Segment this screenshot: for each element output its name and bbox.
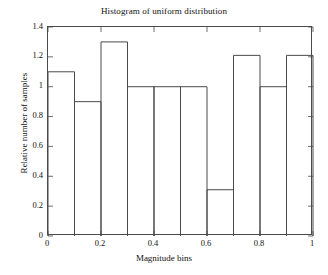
histogram-bar (75, 102, 102, 236)
histogram-bar (128, 87, 155, 236)
histogram-figure: Histogram of uniform distribution Relati… (0, 0, 328, 275)
y-tick-label: 1 (3, 81, 43, 90)
x-axis-tick-labels: 00.20.40.60.81 (47, 239, 312, 253)
histogram-bar (154, 87, 181, 236)
histogram-bar (48, 72, 75, 236)
histogram-bars (48, 27, 313, 236)
y-axis-tick-labels: 00.20.40.60.811.21.4 (0, 26, 43, 235)
histogram-bar (260, 87, 287, 236)
x-tick-label: 0 (27, 239, 67, 248)
x-tick-label: 0.6 (186, 239, 226, 248)
x-tick-label: 0.4 (133, 239, 173, 248)
x-tick-label: 1 (292, 239, 328, 248)
x-axis-label: Magnitude bins (0, 253, 328, 263)
plot-area (47, 26, 312, 235)
y-tick-label: 1.2 (3, 51, 43, 60)
x-tick-label: 0.8 (239, 239, 279, 248)
x-tick-label: 0.2 (80, 239, 120, 248)
y-tick-label: 1.4 (3, 22, 43, 31)
histogram-bar (287, 55, 314, 236)
histogram-bar (207, 190, 234, 236)
histogram-bar (181, 87, 208, 236)
y-tick-label: 0.8 (3, 111, 43, 120)
histogram-bar (101, 42, 128, 236)
y-tick-label: 0 (3, 231, 43, 240)
histogram-bar (234, 55, 261, 236)
y-tick-label: 0.4 (3, 171, 43, 180)
chart-title: Histogram of uniform distribution (0, 6, 328, 16)
y-tick-label: 0.2 (3, 201, 43, 210)
y-tick-label: 0.6 (3, 141, 43, 150)
